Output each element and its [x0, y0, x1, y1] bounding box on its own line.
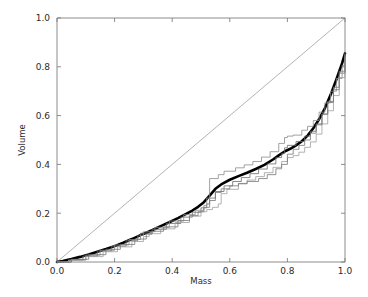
x-tick-label: 0.8 — [280, 266, 295, 276]
chart-figure: 0.00.20.40.60.81.0 0.00.20.40.60.81.0 Ma… — [0, 0, 368, 297]
y-tick-label: 0.2 — [36, 209, 50, 219]
x-tick-label: 1.0 — [338, 266, 353, 276]
x-tick-label: 0.6 — [223, 266, 238, 276]
y-axis-title: Volume — [17, 124, 27, 156]
x-tick-label: 0.0 — [50, 266, 65, 276]
lorenz-curve-plot: 0.00.20.40.60.81.0 0.00.20.40.60.81.0 Ma… — [0, 0, 368, 297]
y-tick-label: 1.0 — [36, 13, 51, 23]
y-tick-label: 0.4 — [36, 160, 51, 170]
y-tick-label: 0.8 — [36, 62, 51, 72]
x-tick-label: 0.2 — [107, 266, 121, 276]
x-axis-title: Mass — [190, 276, 212, 286]
y-tick-label: 0.0 — [36, 257, 51, 267]
y-tick-label: 0.6 — [36, 111, 51, 121]
x-tick-label: 0.4 — [165, 266, 180, 276]
figure-background — [0, 0, 368, 297]
